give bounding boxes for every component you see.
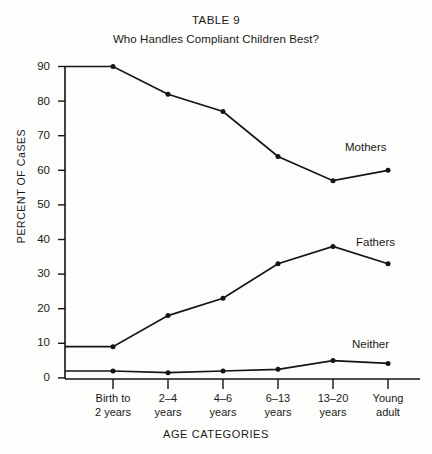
chart-plot-area	[0, 0, 432, 454]
series-neither	[65, 358, 391, 375]
series-label-fathers: Fathers	[356, 236, 395, 248]
x-axis-ticks	[113, 379, 388, 389]
series-mothers	[65, 64, 391, 183]
x-tick-label-5: Young adult	[351, 392, 425, 419]
series-label-mothers: Mothers	[345, 141, 387, 153]
x-axis-title: AGE CATEGORIES	[0, 428, 432, 440]
x-tick-label-5-line1: Young	[351, 392, 425, 406]
y-axis-ticks	[58, 67, 65, 378]
x-tick-label-5-line2: adult	[351, 406, 425, 420]
series-fathers	[65, 244, 391, 349]
series-label-neither: Neither	[352, 338, 389, 350]
chart-container: TABLE 9 Who Handles Compliant Children B…	[0, 0, 432, 454]
